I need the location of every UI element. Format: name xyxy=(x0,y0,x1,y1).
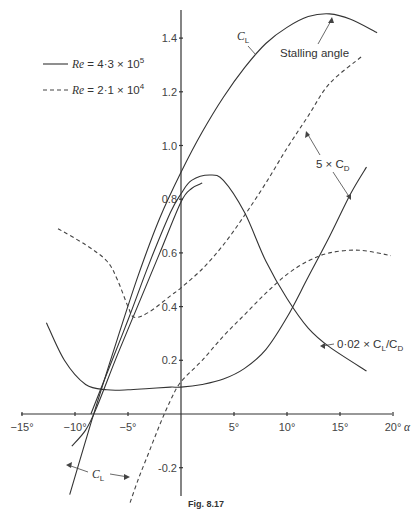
cl-top-leader xyxy=(248,46,256,55)
x-tick-label: 10° xyxy=(279,421,296,433)
y-tick-group: 1.41.21.00.80.60.40.2-0.2 xyxy=(158,32,183,474)
cd-leader-up xyxy=(307,133,320,155)
cd-label: 5 × CD xyxy=(316,158,350,173)
stalling-angle-arrowhead xyxy=(328,17,334,23)
y-tick-label: -0.2 xyxy=(158,462,177,474)
x-tick-label: 15° xyxy=(332,421,349,433)
y-tick-label: 0.4 xyxy=(162,301,177,313)
y-tick-label: 0.6 xyxy=(162,247,177,259)
cl-bottom-arrowhead-left xyxy=(66,462,72,468)
cl-top-label: CL xyxy=(237,30,250,45)
cl-bottom-label: CL xyxy=(92,468,105,483)
legend-dashed-label: Re = 2·1 × 104 xyxy=(71,82,145,96)
cd-leader-down xyxy=(333,172,350,198)
cd-arrowhead-down xyxy=(346,194,351,200)
y-tick-label: 1.0 xyxy=(162,140,177,152)
x-tick-label: −5° xyxy=(120,421,137,433)
y-tick-label: 1.2 xyxy=(162,86,177,98)
y-tick-label: 1.4 xyxy=(162,32,177,44)
x-tick-group: −15°−10°−5°5°10°15°20° xyxy=(10,412,401,433)
curve-2 xyxy=(46,167,366,390)
x-tick-label: −10° xyxy=(63,421,86,433)
ld-label: 0·02 × CL/CD xyxy=(337,338,403,353)
x-tick-label: 5° xyxy=(229,421,240,433)
x-tick-label: −15° xyxy=(10,421,33,433)
figure-caption: Fig. 8.17 xyxy=(188,499,224,509)
ld-arrowhead xyxy=(320,343,325,349)
cl-bottom-arrowhead-right xyxy=(124,474,130,480)
x-tick-label: 20° xyxy=(385,421,402,433)
legend: Re = 4·3 × 105 Re = 2·1 × 104 xyxy=(43,56,145,96)
legend-solid-label: Re = 4·3 × 105 xyxy=(71,56,145,70)
aerofoil-characteristics-chart: −15°−10°−5°5°10°15°20° 1.41.21.00.80.60.… xyxy=(0,0,419,511)
y-tick-label: 0.2 xyxy=(162,354,177,366)
stalling-angle-label: Stalling angle xyxy=(280,47,349,59)
curve-1 xyxy=(72,183,202,446)
x-axis-label: α xyxy=(404,421,411,433)
